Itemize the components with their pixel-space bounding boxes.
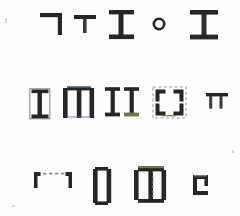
scan-speck [12,205,15,207]
glyph-i-beam-wide [190,10,220,40]
glyph-double-bracket-joined [63,86,95,121]
glyph-twin-i-beams [105,86,140,121]
glyph-double-tee-small [206,93,230,111]
glyph-dashed-corner-box [152,86,188,121]
glyph-i-beam-narrow [108,10,136,40]
scan-speck [5,18,7,23]
glyph-small-open-square [193,175,213,197]
glyph-tee-small [74,15,98,35]
glyph-open-channel-dashed [33,172,75,194]
glyph-sheet-canvas [0,0,240,216]
glyph-corner-bracket-top-right [40,13,64,37]
glyph-boxed-i-beam [29,88,53,120]
scan-speck [232,150,234,153]
glyph-bracket-pair-tall [93,167,121,207]
glyph-i-beam-double-web [134,165,172,207]
glyph-ring-dot [152,17,167,32]
